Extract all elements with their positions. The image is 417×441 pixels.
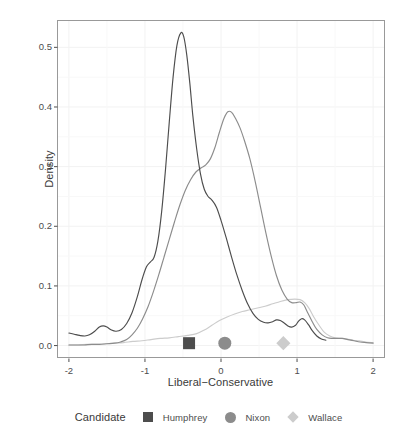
legend-item-humphrey[interactable]: Humphrey <box>139 408 208 426</box>
nixon-circle-icon <box>221 408 239 426</box>
legend-label-wallace: Wallace <box>308 412 342 423</box>
wallace-diamond-icon <box>284 408 302 426</box>
legend-item-nixon[interactable]: Nixon <box>221 408 270 426</box>
density-plot-figure: Density Liberal−Conservative 0.00.10.20.… <box>0 0 417 441</box>
legend-item-wallace[interactable]: Wallace <box>284 408 342 426</box>
legend-title: Candidate <box>75 411 126 423</box>
marker-humphrey <box>183 337 195 349</box>
legend: Candidate Humphrey Nixon Wallace <box>0 404 417 430</box>
legend-label-nixon: Nixon <box>245 412 270 423</box>
marker-nixon <box>218 337 231 350</box>
humphrey-square-icon <box>139 408 157 426</box>
legend-label-humphrey: Humphrey <box>163 412 208 423</box>
plot-panel <box>0 0 417 441</box>
